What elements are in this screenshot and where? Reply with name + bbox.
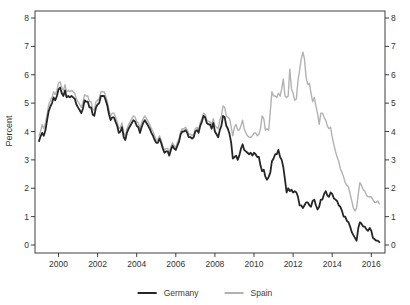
germany-series-line [39,88,379,243]
y-tick-label-right: 8 [391,13,396,23]
x-tick-label: 2006 [166,259,185,269]
y-tick-label-left: 6 [24,70,29,80]
line-chart-figure: 0011223344556677882000200220042006200820… [0,0,410,305]
spain-series-line [39,52,379,211]
y-tick-label-left: 4 [24,127,29,137]
y-tick-label-right: 2 [391,183,396,193]
y-tick-label-left: 2 [24,183,29,193]
x-tick-label: 2010 [245,259,264,269]
legend-item-spain: Spain [225,288,273,298]
germany-line-swatch [138,292,157,295]
x-tick-label: 2008 [205,259,224,269]
y-tick-label-right: 7 [391,41,396,51]
y-tick-label-right: 4 [391,127,396,137]
legend: Germany Spain [138,288,273,298]
chart-svg: 0011223344556677882000200220042006200820… [0,0,410,305]
x-tick-label: 2004 [127,259,146,269]
y-axis-title: Percent [4,115,14,146]
y-tick-label-right: 1 [391,212,396,222]
y-tick-label-right: 5 [391,98,396,108]
x-tick-label: 2012 [284,259,303,269]
x-tick-label: 2002 [88,259,107,269]
x-tick-label: 2016 [362,259,381,269]
legend-label-germany: Germany [164,288,199,298]
y-tick-label-right: 3 [391,155,396,165]
y-tick-label-left: 7 [24,41,29,51]
x-tick-label: 2014 [323,259,342,269]
y-tick-label-left: 3 [24,155,29,165]
y-tick-label-right: 0 [391,240,396,250]
y-tick-label-left: 5 [24,98,29,108]
y-tick-label-right: 6 [391,70,396,80]
legend-label-spain: Spain [251,288,273,298]
y-tick-label-left: 0 [24,240,29,250]
y-tick-label-left: 8 [24,13,29,23]
plot-frame [35,11,385,253]
x-tick-label: 2000 [49,259,68,269]
spain-line-swatch [225,292,244,294]
legend-item-germany: Germany [138,288,199,298]
y-tick-label-left: 1 [24,212,29,222]
